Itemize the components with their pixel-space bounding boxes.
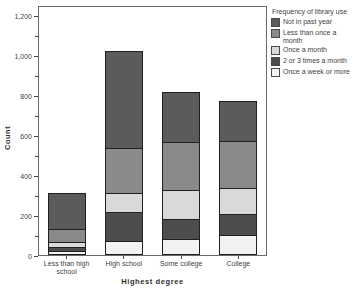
y-minor-tick bbox=[35, 156, 38, 157]
legend-items: Not in past yearLess than once a monthOn… bbox=[271, 18, 356, 77]
legend-item-label: Once a week or more bbox=[283, 68, 350, 76]
library-use-stacked-bar-chart: 02004006008001,0001,200 Count Less than … bbox=[0, 0, 357, 289]
legend-item-label: 2 or 3 times a month bbox=[283, 57, 347, 65]
y-tick-label: 400 bbox=[0, 173, 32, 180]
legend-item: Less than once a month bbox=[271, 29, 356, 44]
y-axis-title: Count bbox=[3, 126, 12, 150]
legend-swatch bbox=[271, 18, 280, 27]
y-tick-label: 1,000 bbox=[0, 53, 32, 60]
bar-segment bbox=[162, 92, 200, 143]
stacked-bar bbox=[162, 92, 200, 255]
legend-item-label: Less than once a month bbox=[283, 29, 355, 44]
legend-item-label: Once a month bbox=[283, 46, 327, 54]
bar-segment bbox=[219, 188, 257, 215]
y-minor-tick bbox=[35, 196, 38, 197]
stacked-bar bbox=[48, 193, 86, 255]
bar-segment bbox=[162, 190, 200, 220]
stacked-bar bbox=[219, 101, 257, 255]
legend-swatch bbox=[271, 68, 280, 77]
y-tick-label: 0 bbox=[0, 253, 32, 260]
x-axis-labels: Less than high schoolHigh schoolSome col… bbox=[38, 260, 267, 275]
legend-item: Not in past year bbox=[271, 18, 356, 27]
legend-title: Frequency of library use bbox=[271, 8, 356, 16]
bar-segment bbox=[48, 251, 86, 255]
bar-segment bbox=[105, 212, 143, 242]
y-tick-label: 1,200 bbox=[0, 13, 32, 20]
bar-segment bbox=[219, 141, 257, 189]
stacked-bar bbox=[105, 51, 143, 255]
y-major-tick bbox=[34, 216, 38, 217]
bar-segment bbox=[105, 148, 143, 194]
bar-segment bbox=[105, 193, 143, 213]
legend-item: Once a month bbox=[271, 46, 356, 55]
x-tick-label: High school bbox=[95, 260, 152, 275]
bar-segment bbox=[162, 239, 200, 255]
x-tick-label: College bbox=[210, 260, 267, 275]
y-major-tick bbox=[34, 176, 38, 177]
x-tick-label: Less than high school bbox=[38, 260, 95, 275]
legend-item: 2 or 3 times a month bbox=[271, 57, 356, 66]
bar-segment bbox=[105, 241, 143, 255]
x-tick-mark bbox=[66, 256, 67, 259]
legend-swatch bbox=[271, 46, 280, 55]
x-axis-title: Highest degree bbox=[38, 277, 267, 286]
y-minor-tick bbox=[35, 116, 38, 117]
bar-segment bbox=[162, 142, 200, 191]
legend-swatch bbox=[271, 57, 280, 66]
x-tick-slot bbox=[153, 256, 210, 259]
y-tick-label: 200 bbox=[0, 213, 32, 220]
x-tick-mark bbox=[238, 256, 239, 259]
x-tick-mark bbox=[123, 256, 124, 259]
y-major-tick bbox=[34, 16, 38, 17]
bar-segment bbox=[162, 219, 200, 240]
bar-segment bbox=[48, 229, 86, 243]
bar-segment bbox=[105, 51, 143, 149]
x-tick-label: Some college bbox=[153, 260, 210, 275]
bar-segment bbox=[48, 193, 86, 230]
y-tick-label: 800 bbox=[0, 93, 32, 100]
x-axis-ticks bbox=[38, 256, 267, 259]
bar-segment bbox=[219, 235, 257, 255]
bar-segment bbox=[219, 214, 257, 236]
y-major-tick bbox=[34, 96, 38, 97]
legend: Frequency of library use Not in past yea… bbox=[271, 8, 356, 79]
x-tick-slot bbox=[38, 256, 95, 259]
y-major-tick bbox=[34, 136, 38, 137]
y-minor-tick bbox=[35, 76, 38, 77]
y-major-tick bbox=[34, 56, 38, 57]
legend-item: Once a week or more bbox=[271, 68, 356, 77]
x-tick-slot bbox=[95, 256, 152, 259]
legend-swatch bbox=[271, 29, 280, 38]
plot-area bbox=[38, 6, 267, 256]
y-minor-tick bbox=[35, 236, 38, 237]
y-minor-tick bbox=[35, 36, 38, 37]
x-tick-mark bbox=[181, 256, 182, 259]
legend-item-label: Not in past year bbox=[283, 18, 332, 26]
x-tick-slot bbox=[210, 256, 267, 259]
bars-container bbox=[39, 7, 266, 255]
bar-segment bbox=[219, 101, 257, 142]
